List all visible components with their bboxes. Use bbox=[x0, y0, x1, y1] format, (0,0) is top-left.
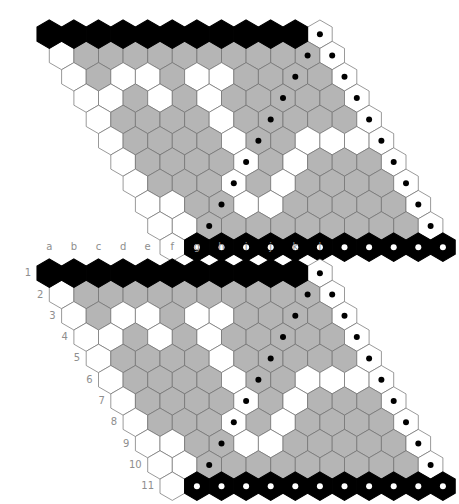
hex-cell-dot-icon bbox=[231, 180, 237, 186]
column-label-f: f bbox=[165, 242, 179, 252]
hex-cell-dot-icon bbox=[292, 74, 298, 80]
hex-cell-dot-icon bbox=[342, 483, 348, 489]
hex-cell-dot-icon bbox=[268, 355, 274, 361]
hex-cell-dot-icon bbox=[268, 116, 274, 122]
hex-cell-dot-icon bbox=[219, 483, 225, 489]
hex-cell-dot-icon bbox=[440, 483, 446, 489]
column-label-i: i bbox=[239, 242, 253, 252]
hex-cell-dot-icon bbox=[329, 292, 335, 298]
hex-cell-dot-icon bbox=[366, 244, 372, 250]
hex-cell-dot-icon bbox=[292, 483, 298, 489]
column-label-j: j bbox=[264, 242, 278, 252]
hex-cell-dot-icon bbox=[415, 483, 421, 489]
column-label-g: g bbox=[190, 242, 204, 252]
hex-cell-dot-icon bbox=[366, 355, 372, 361]
hex-cell-dot-icon bbox=[415, 244, 421, 250]
row-label-4: 4 bbox=[52, 332, 68, 342]
row-label-8: 8 bbox=[101, 417, 117, 427]
hex-cell-dot-icon bbox=[342, 313, 348, 319]
hex-cell-dot-icon bbox=[243, 398, 249, 404]
row-label-6: 6 bbox=[77, 375, 93, 385]
hex-cell-dot-icon bbox=[219, 441, 225, 447]
hex-cell-dot-icon bbox=[378, 138, 384, 144]
column-label-d: d bbox=[116, 242, 130, 252]
hex-cell-dot-icon bbox=[415, 202, 421, 208]
row-label-10: 10 bbox=[126, 460, 142, 470]
hex-cell-dot-icon bbox=[391, 483, 397, 489]
hex-cell-dot-icon bbox=[206, 462, 212, 468]
hex-cell-dot-icon bbox=[391, 398, 397, 404]
column-label-a: a bbox=[42, 242, 56, 252]
hex-cell-dot-icon bbox=[231, 419, 237, 425]
row-label-11: 11 bbox=[138, 481, 154, 491]
hex-cell-dot-icon bbox=[428, 223, 434, 229]
row-label-1: 1 bbox=[15, 268, 31, 278]
column-label-c: c bbox=[92, 242, 106, 252]
hex-cell-dot-icon bbox=[305, 53, 311, 59]
hex-cell-dot-icon bbox=[342, 244, 348, 250]
column-label-b: b bbox=[67, 242, 81, 252]
row-label-9: 9 bbox=[113, 439, 129, 449]
column-label-k: k bbox=[288, 242, 302, 252]
column-label-l: l bbox=[313, 242, 327, 252]
row-label-2: 2 bbox=[27, 290, 43, 300]
hex-cell-dot-icon bbox=[329, 53, 335, 59]
row-label-7: 7 bbox=[89, 396, 105, 406]
column-label-h: h bbox=[215, 242, 229, 252]
hex-cell-dot-icon bbox=[378, 377, 384, 383]
hex-cell-dot-icon bbox=[391, 159, 397, 165]
hex-cell-dot-icon bbox=[280, 95, 286, 101]
hex-cell-dot-icon bbox=[243, 483, 249, 489]
row-label-5: 5 bbox=[64, 353, 80, 363]
hex-cell-dot-icon bbox=[403, 419, 409, 425]
hex-cell-dot-icon bbox=[243, 159, 249, 165]
hex-cell-dot-icon bbox=[354, 95, 360, 101]
hex-cell-dot-icon bbox=[317, 483, 323, 489]
hex-cell-dot-icon bbox=[292, 313, 298, 319]
hex-cell-dot-icon bbox=[391, 244, 397, 250]
hex-grid bbox=[33, 16, 459, 265]
hex-cell-dot-icon bbox=[317, 270, 323, 276]
hex-cell-dot-icon bbox=[268, 483, 274, 489]
hex-cell-dot-icon bbox=[354, 334, 360, 340]
row-label-3: 3 bbox=[40, 311, 56, 321]
hex-cell-dot-icon bbox=[415, 441, 421, 447]
hex-cell-dot-icon bbox=[305, 292, 311, 298]
hex-grid bbox=[33, 255, 459, 504]
hex-cell-dot-icon bbox=[366, 116, 372, 122]
hex-cell-dot-icon bbox=[428, 462, 434, 468]
hex-cell-dot-icon bbox=[194, 483, 200, 489]
hex-cell-dot-icon bbox=[255, 377, 261, 383]
hex-cell-dot-icon bbox=[366, 483, 372, 489]
column-label-e: e bbox=[141, 242, 155, 252]
hex-cell-dot-icon bbox=[317, 31, 323, 37]
hex-cell-dot-icon bbox=[280, 334, 286, 340]
hex-cell-dot-icon bbox=[219, 202, 225, 208]
hex-cell-dot-icon bbox=[206, 223, 212, 229]
hex-cell-dot-icon bbox=[440, 244, 446, 250]
hex-cell-dot-icon bbox=[403, 180, 409, 186]
hex-cell-dot-icon bbox=[255, 138, 261, 144]
hex-cell-dot-icon bbox=[342, 74, 348, 80]
